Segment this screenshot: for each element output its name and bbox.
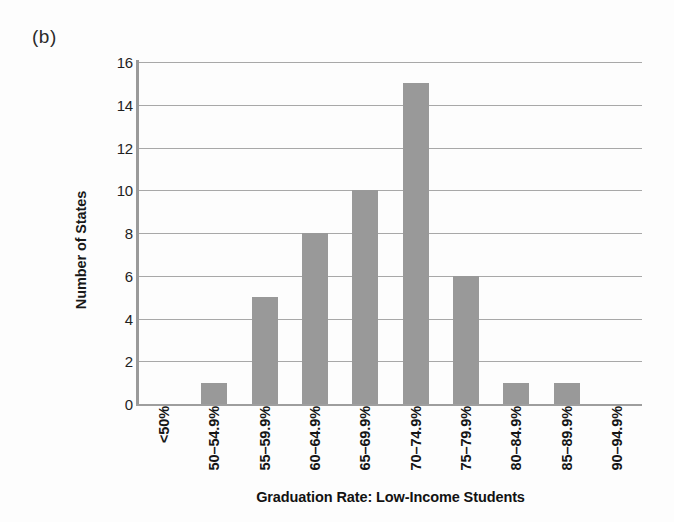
bar-slot xyxy=(391,62,441,404)
panel-label: (b) xyxy=(32,26,57,48)
y-axis-tick-label: 16 xyxy=(103,54,133,71)
y-axis-tick-label: 10 xyxy=(103,182,133,199)
x-label-slot: 60–64.9% xyxy=(290,406,340,484)
bar xyxy=(554,383,580,404)
x-label-slot: <50% xyxy=(139,406,189,484)
bar-slot xyxy=(541,62,591,404)
bar-slot xyxy=(441,62,491,404)
y-axis-tick-label: 4 xyxy=(103,310,133,327)
y-axis-tick-label: 12 xyxy=(103,139,133,156)
y-axis-title: Number of States xyxy=(70,140,92,360)
x-label-slot: 85–89.9% xyxy=(541,406,591,484)
bar xyxy=(201,383,227,404)
x-label-slot: 50–54.9% xyxy=(189,406,239,484)
bar-slot xyxy=(491,62,541,404)
bar xyxy=(302,233,328,404)
x-label-slot: 90–94.9% xyxy=(592,406,642,484)
x-axis-tick-label: 80–84.9% xyxy=(508,406,524,471)
x-axis-tick-label: 75–79.9% xyxy=(458,406,474,471)
y-axis-tick-label: 6 xyxy=(103,267,133,284)
figure-panel: (b) Number of States 0246810121416 <50%5… xyxy=(0,0,674,522)
bar xyxy=(252,297,278,404)
x-axis-tick-label: 60–64.9% xyxy=(307,406,323,471)
x-label-slot: 65–69.9% xyxy=(340,406,390,484)
x-axis-tick-label: 85–89.9% xyxy=(559,406,575,471)
y-axis-tick-label: 8 xyxy=(103,225,133,242)
x-axis-tick-label: 90–94.9% xyxy=(609,406,625,471)
bar xyxy=(352,190,378,404)
y-axis-title-text: Number of States xyxy=(73,191,89,309)
x-label-slot: 55–59.9% xyxy=(240,406,290,484)
x-axis-tick-label: 50–54.9% xyxy=(206,406,222,471)
bar-slot xyxy=(592,62,642,404)
bar-slot xyxy=(290,62,340,404)
x-axis-tick-label: <50% xyxy=(156,406,172,443)
x-label-slot: 70–74.9% xyxy=(391,406,441,484)
bar-slot xyxy=(340,62,390,404)
x-label-slot: 75–79.9% xyxy=(441,406,491,484)
x-axis-tick-labels: <50%50–54.9%55–59.9%60–64.9%65–69.9%70–7… xyxy=(139,406,642,484)
x-label-slot: 80–84.9% xyxy=(491,406,541,484)
x-axis-title: Graduation Rate: Low-Income Students xyxy=(139,489,642,505)
y-axis-tick-label: 2 xyxy=(103,353,133,370)
bar-slot xyxy=(189,62,239,404)
plot-area xyxy=(139,62,642,404)
bar-slot xyxy=(139,62,189,404)
y-axis-tick-label: 14 xyxy=(103,96,133,113)
y-axis-tick-label: 0 xyxy=(103,396,133,413)
x-axis-tick-label: 70–74.9% xyxy=(408,406,424,471)
y-axis-tick-labels: 0246810121416 xyxy=(103,62,133,404)
bar-slot xyxy=(240,62,290,404)
bar xyxy=(503,383,529,404)
bar xyxy=(403,83,429,404)
x-axis-tick-label: 55–59.9% xyxy=(257,406,273,471)
bar xyxy=(453,276,479,404)
x-axis-tick-label: 65–69.9% xyxy=(357,406,373,471)
bar-series xyxy=(139,62,642,404)
